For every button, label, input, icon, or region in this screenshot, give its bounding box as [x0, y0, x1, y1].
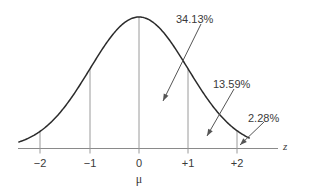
annotation-arrow-line-2	[207, 89, 234, 136]
mu-axis-label: μ	[136, 173, 142, 185]
axis-tick-label-1: −2	[34, 158, 47, 169]
distribution-plot-svg	[0, 0, 310, 196]
annotation-label-region-1-to-2: 13.59%	[213, 79, 250, 90]
z-axis-label: z	[283, 141, 287, 152]
axis-tick-group	[40, 149, 237, 154]
annotation-arrow-head-2	[207, 129, 213, 136]
annotation-label-region-0-to-1: 34.13%	[176, 14, 213, 25]
annotation-arrow-head-1	[163, 94, 168, 101]
axis-tick-label-3: 0	[136, 158, 142, 169]
normal-distribution-figure: 34.13%13.59%2.28% −2−10+1+2 μ z	[0, 0, 310, 196]
axis-tick-label-2: −1	[84, 158, 97, 169]
annotation-label-region-beyond-2: 2.28%	[248, 113, 279, 124]
ordinate-line-group	[40, 17, 237, 149]
axis-tick-label-5: +2	[231, 158, 244, 169]
axis-tick-label-4: +1	[182, 158, 195, 169]
annotation-arrow-line-1	[163, 24, 201, 101]
